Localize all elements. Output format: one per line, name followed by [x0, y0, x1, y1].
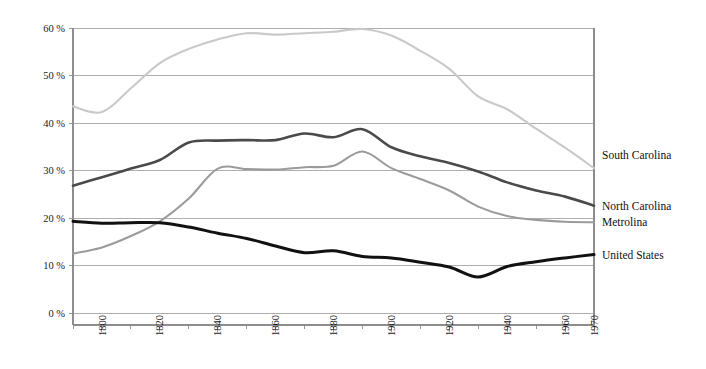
x-tick-label-1840: 1840	[212, 315, 223, 336]
x-tick-label-1880: 1880	[328, 315, 339, 336]
series-label-united-states: United States	[602, 249, 664, 261]
x-tick-label-1860: 1860	[270, 315, 281, 336]
x-tick-label-1960: 1960	[560, 315, 571, 336]
y-tick-label-30: 30 %	[43, 165, 65, 176]
y-axis-tick-labels: 0 %10 %20 %30 %40 %50 %60 %	[43, 23, 65, 319]
series-line-north-carolina	[73, 129, 594, 206]
x-tick-label-1970: 1970	[589, 315, 600, 336]
x-tick-label-1820: 1820	[154, 315, 165, 336]
y-tick-label-50: 50 %	[43, 70, 65, 81]
series-line-south-carolina	[73, 29, 594, 168]
x-tick-label-1800: 1800	[97, 315, 108, 336]
y-tick-label-60: 60 %	[43, 23, 65, 34]
series-label-south-carolina: South Carolina	[602, 149, 671, 161]
x-tick-label-1920: 1920	[444, 315, 455, 336]
y-tick-label-10: 10 %	[43, 260, 65, 271]
series-legend-labels: South CarolinaNorth CarolinaMetrolinaUni…	[602, 149, 671, 260]
series-line-united-states	[73, 221, 594, 277]
y-tick-label-0: 0 %	[48, 308, 65, 319]
series-label-north-carolina: North Carolina	[602, 200, 671, 212]
series-label-metrolina: Metrolina	[602, 216, 647, 228]
chart-canvas: 0 %10 %20 %30 %40 %50 %60 % 180018201840…	[0, 0, 706, 369]
y-tick-label-40: 40 %	[43, 118, 65, 129]
x-tick-label-1940: 1940	[502, 315, 513, 336]
series-line-metrolina	[73, 151, 594, 253]
x-tick-label-1900: 1900	[386, 315, 397, 336]
y-tick-label-20: 20 %	[43, 213, 65, 224]
chart-axes	[73, 28, 594, 325]
data-series-lines	[73, 29, 594, 277]
line-chart-urban-population: 0 %10 %20 %30 %40 %50 %60 % 180018201840…	[0, 0, 706, 369]
